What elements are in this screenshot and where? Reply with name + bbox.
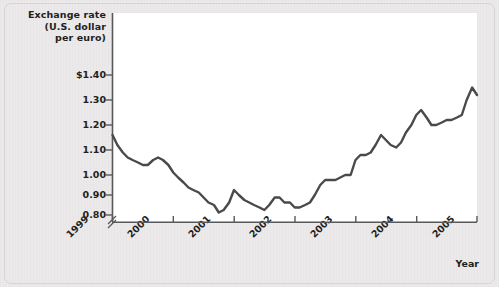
axis-lines: [112, 13, 477, 222]
chart-figure: Exchange rate (U.S. dollar per euro) $1.…: [0, 0, 499, 287]
chart-canvas: [0, 0, 499, 287]
exchange-rate-line: [113, 88, 478, 213]
x-axis-ticks: [113, 216, 478, 222]
